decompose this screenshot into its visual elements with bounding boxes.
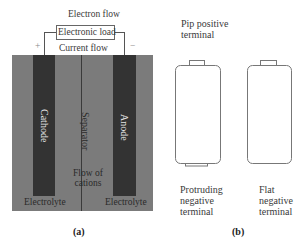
battery-flat-negative-icon (242, 55, 302, 171)
pip-positive-line1: Pip positive (181, 18, 229, 29)
wire-left-horizontal (44, 32, 56, 33)
protruding-line3: terminal (180, 206, 223, 217)
negative-terminal-sign: − (130, 41, 135, 51)
caption-a: (a) (73, 226, 85, 237)
separator-label: Separator (80, 112, 91, 150)
protruding-line1: Protruding (180, 184, 223, 195)
electron-flow-label: Electron flow (68, 9, 120, 19)
pip-positive-line2: terminal (181, 29, 229, 40)
protruding-negative-label: Protruding negative terminal (180, 184, 223, 217)
anode-label: Anode (119, 114, 130, 141)
pip-positive-label: Pip positive terminal (181, 18, 229, 40)
flat-line2: negative (259, 195, 293, 206)
flat-negative-label: Flat negative terminal (259, 184, 293, 217)
flat-line1: Flat (259, 184, 293, 195)
wire-right-vertical (124, 32, 125, 55)
flow-of-cations-line1: Flow of (72, 168, 104, 178)
flow-of-cations-line2: cations (72, 178, 104, 188)
flow-of-cations-label: Flow of cations (72, 168, 104, 188)
protruding-line2: negative (180, 195, 223, 206)
electrolyte-left-label: Electrolyte (24, 197, 66, 207)
cathode-label: Cathode (39, 109, 50, 142)
electronic-load-label: Electronic load (58, 27, 116, 37)
current-flow-label: Current flow (59, 43, 108, 53)
wire-left-vertical (44, 32, 45, 55)
electrolyte-right-label: Electrolyte (105, 197, 147, 207)
battery-protruding-negative-icon (170, 55, 230, 171)
caption-b: (b) (232, 226, 244, 237)
positive-terminal-sign: + (35, 41, 40, 51)
flat-line3: terminal (259, 206, 293, 217)
